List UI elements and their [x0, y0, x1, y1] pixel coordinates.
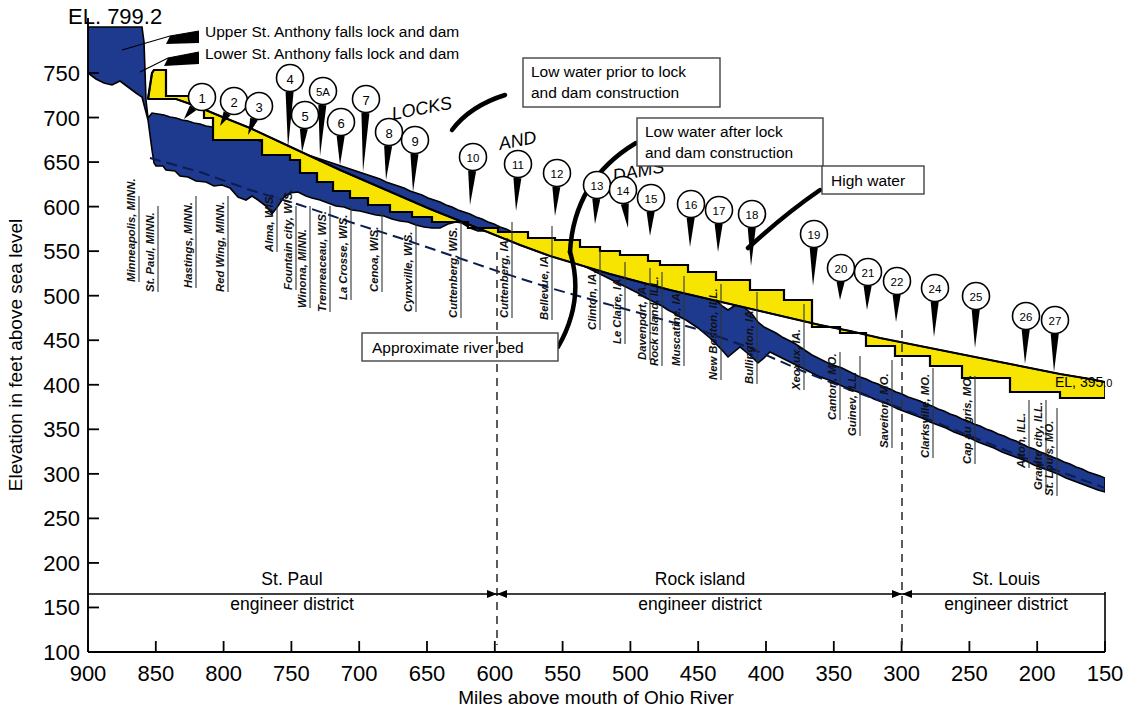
lock-dam-number: 2 — [230, 95, 237, 110]
lock-dam-number: 19 — [808, 229, 821, 241]
y-tick-label: 700 — [43, 106, 80, 131]
chart-svg: 1001502002503003504004505005506006507007… — [0, 0, 1139, 726]
lock-dam-number: 21 — [862, 267, 875, 279]
lock-dam-number: 9 — [411, 134, 418, 149]
lock-dam-number: 26 — [1020, 311, 1033, 323]
city-label: Guinev, ILL. — [846, 372, 858, 436]
city-marker: Canton, MO. — [826, 352, 840, 420]
city-label: Bellevue, IA. — [538, 253, 550, 320]
x-tick-label: 600 — [476, 661, 513, 686]
city-marker: St. Paul, MINN. — [144, 206, 158, 292]
city-label: Davenport, IA. — [636, 283, 648, 360]
lock-dam-number: 14 — [617, 185, 630, 197]
y-tick-label: 350 — [43, 417, 80, 442]
lock-dam-number: 1 — [198, 91, 205, 106]
city-label: Clinton, IA. — [586, 270, 598, 330]
x-tick-label: 350 — [815, 661, 852, 686]
city-marker: Cynxville, WIS. — [402, 222, 416, 312]
x-tick-label: 850 — [137, 661, 174, 686]
x-tick-label: 650 — [409, 661, 446, 686]
city-marker: Tremreaceau, WIS. — [316, 206, 330, 312]
y-tick-label: 300 — [43, 462, 80, 487]
district-name-1: Rock island — [655, 569, 745, 589]
lock-dam-number: 5A — [316, 86, 330, 98]
x-tick-label: 500 — [612, 661, 649, 686]
x-tick-label: 300 — [883, 661, 920, 686]
lock-dam-number: 10 — [467, 152, 480, 164]
district-name-0: St. Paul — [261, 569, 322, 589]
city-label: St. Louis, MO. — [1043, 421, 1055, 496]
lock-dam-number: 7 — [362, 93, 369, 108]
x-tick-label: 200 — [1019, 661, 1056, 686]
y-tick-label: 650 — [43, 150, 80, 175]
lock-dam-number: 6 — [337, 116, 344, 131]
callout-lower-st-anthony: Lower St. Anthony falls lock and dam — [205, 45, 459, 62]
callout-low-water-after-line1: Low water after lock — [645, 123, 783, 140]
city-label: Canton, MO. — [826, 353, 838, 420]
city-marker: Alma, WIS. — [263, 194, 277, 253]
lock-dam-number: 4 — [286, 72, 293, 87]
city-label: Alma, WIS. — [263, 194, 275, 253]
city-label: Saveiton, MO. — [878, 373, 890, 448]
lock-dam-number: 16 — [685, 199, 698, 211]
city-label: Winona, MINN. — [296, 229, 308, 308]
lock-dam-number: 15 — [645, 193, 658, 205]
city-label: Cenoa, WIS. — [368, 227, 380, 292]
callout-approximate-river-bed-text: Approximate river bed — [372, 339, 524, 356]
city-label: Hastings, MINN. — [182, 202, 194, 288]
x-tick-label: 450 — [680, 661, 717, 686]
x-tick-label: 250 — [951, 661, 988, 686]
y-axis-title: Elevation in feet above sea level — [5, 219, 26, 492]
x-tick-label: 400 — [748, 661, 785, 686]
city-label: Cynxville, WIS. — [402, 232, 414, 312]
city-label: Clarksville, MO. — [919, 374, 931, 458]
city-marker: Fountain city, WIS. — [282, 189, 296, 290]
city-marker: Hastings, MINN. — [182, 196, 196, 288]
callout-low-water-prior-line2: and dam construction — [531, 84, 679, 101]
city-marker: Red Wing, MINN. — [214, 196, 228, 292]
lock-dam-number: 25 — [970, 291, 983, 303]
district-sub-0: engineer district — [230, 594, 354, 614]
lock-dam-number: 3 — [255, 100, 262, 115]
city-marker: Cap au gris, MO. — [961, 375, 975, 464]
lock-dam-number: 18 — [746, 209, 759, 221]
city-label: New Boston, ILL. — [707, 288, 719, 380]
city-label: Xeoxux, IA. — [790, 329, 802, 391]
x-axis-title: Miles above mouth of Ohio River — [458, 687, 734, 708]
lock-dam-number: 17 — [713, 205, 726, 217]
city-marker: Minneapolis, MINN. — [125, 178, 139, 282]
city-marker: St. Louis, MO. — [1043, 408, 1057, 496]
district-sub-1: engineer district — [638, 594, 762, 614]
x-tick-label: 750 — [273, 661, 310, 686]
city-label: Cuttenberg, IA. — [498, 237, 510, 318]
city-label: Le Claire, IA. — [611, 276, 623, 344]
y-tick-label: 400 — [43, 373, 80, 398]
x-tick-label: 800 — [205, 661, 242, 686]
lock-dam-number: 22 — [891, 276, 904, 288]
lock-dam-number: 27 — [1049, 315, 1062, 327]
y-tick-label: 250 — [43, 506, 80, 531]
lock-dam-number: 8 — [385, 126, 392, 141]
city-label: Tremreaceau, WIS. — [316, 211, 328, 312]
city-marker: Clarksville, MO. — [919, 368, 933, 458]
y-tick-label: 600 — [43, 195, 80, 220]
right-elevation-label: EL, 395.0 — [1055, 374, 1112, 390]
lock-dam-number: 20 — [835, 263, 848, 275]
city-label: Cuttenberg, WIS. — [447, 227, 459, 318]
city-marker: La Crosse, WIS. — [337, 206, 351, 300]
y-tick-label: 200 — [43, 551, 80, 576]
lock-dam-number: 12 — [551, 168, 564, 180]
lock-dam-number: 13 — [591, 180, 604, 192]
callout-low-water-prior-line1: Low water prior to lock — [531, 63, 686, 80]
top-elevation-label: EL. 799.2 — [68, 4, 162, 29]
city-label: Bullington, IA. — [743, 307, 755, 384]
city-label: Fountain city, WIS. — [282, 189, 294, 290]
district-sub-2: engineer district — [944, 594, 1068, 614]
city-label: St. Paul, MINN. — [144, 212, 156, 292]
city-label: Rock island, ILL. — [648, 276, 660, 366]
city-label: La Crosse, WIS. — [337, 215, 349, 300]
river-profile-chart: 1001502002503003504004505005506006507007… — [0, 0, 1139, 726]
city-label: Alton, ILL. — [1015, 413, 1027, 469]
lock-dam-number: 24 — [929, 283, 942, 295]
x-tick-label: 150 — [1087, 661, 1124, 686]
